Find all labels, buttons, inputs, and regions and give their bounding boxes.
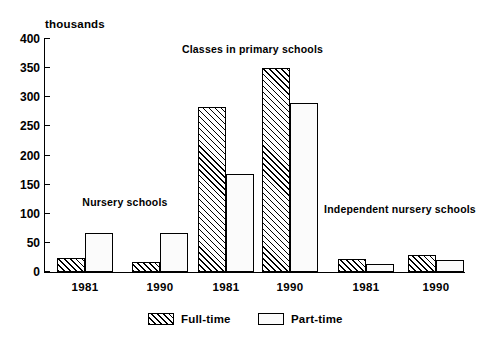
x-tick-label-group-5: 1981 xyxy=(336,281,396,293)
legend-label-parttime: Part-time xyxy=(291,313,343,325)
y-tick-label-100: 100 xyxy=(8,208,40,220)
bar-parttime-nursery-1990 xyxy=(160,233,188,272)
legend-label-fulltime: Full-time xyxy=(181,313,231,325)
y-tick-label-400: 400 xyxy=(8,33,40,45)
x-axis-line xyxy=(44,272,465,273)
bar-fulltime-nursery-1981 xyxy=(57,258,85,272)
x-tick-label-group-4: 1990 xyxy=(260,281,320,293)
y-tick-label-250: 250 xyxy=(8,120,40,132)
section-label-independent-nursery-schools: Independent nursery schools xyxy=(320,203,480,215)
legend-item-fulltime: Full-time xyxy=(148,313,231,325)
bar-fulltime-nursery-1990 xyxy=(132,262,160,272)
y-tick-label-150: 150 xyxy=(8,179,40,191)
bar-fulltime-primary-1981 xyxy=(198,107,226,272)
y-tick-label-350: 350 xyxy=(8,62,40,74)
x-tick-label-group-3: 1981 xyxy=(196,281,256,293)
y-tick-label-200: 200 xyxy=(8,150,40,162)
bar-fulltime-independent-1990 xyxy=(408,255,436,272)
y-tick-mark-150 xyxy=(45,184,50,185)
x-tick-label-group-6: 1990 xyxy=(406,281,466,293)
y-tick-mark-350 xyxy=(45,67,50,68)
bar-chart: thousands 400 350 300 250 200 150 100 50… xyxy=(0,0,488,348)
x-tick-label-group-1: 1981 xyxy=(55,281,115,293)
bar-parttime-primary-1990 xyxy=(290,103,318,272)
y-tick-mark-250 xyxy=(45,125,50,126)
bar-fulltime-independent-1981 xyxy=(338,259,366,272)
y-tick-mark-100 xyxy=(45,213,50,214)
section-label-nursery-schools: Nursery schools xyxy=(60,196,190,208)
y-tick-mark-400 xyxy=(45,38,50,39)
bar-parttime-nursery-1981 xyxy=(85,233,113,272)
y-tick-label-300: 300 xyxy=(8,91,40,103)
y-tick-mark-50 xyxy=(45,242,50,243)
section-label-classes-primary-schools: Classes in primary schools xyxy=(180,43,325,55)
bar-fulltime-primary-1990 xyxy=(262,68,290,272)
x-tick-label-group-2: 1990 xyxy=(130,281,190,293)
legend-item-parttime: Part-time xyxy=(258,313,343,325)
y-axis-unit-label: thousands xyxy=(45,18,105,30)
y-tick-mark-300 xyxy=(45,96,50,97)
bar-parttime-independent-1981 xyxy=(366,264,394,272)
bar-parttime-primary-1981 xyxy=(226,174,254,272)
y-tick-mark-200 xyxy=(45,155,50,156)
y-tick-label-50: 50 xyxy=(8,237,40,249)
legend-swatch-fulltime xyxy=(148,313,174,325)
legend-swatch-parttime xyxy=(258,313,284,325)
y-tick-label-0: 0 xyxy=(8,266,40,278)
y-tick-mark-0 xyxy=(45,271,50,272)
bar-parttime-independent-1990 xyxy=(436,260,464,272)
